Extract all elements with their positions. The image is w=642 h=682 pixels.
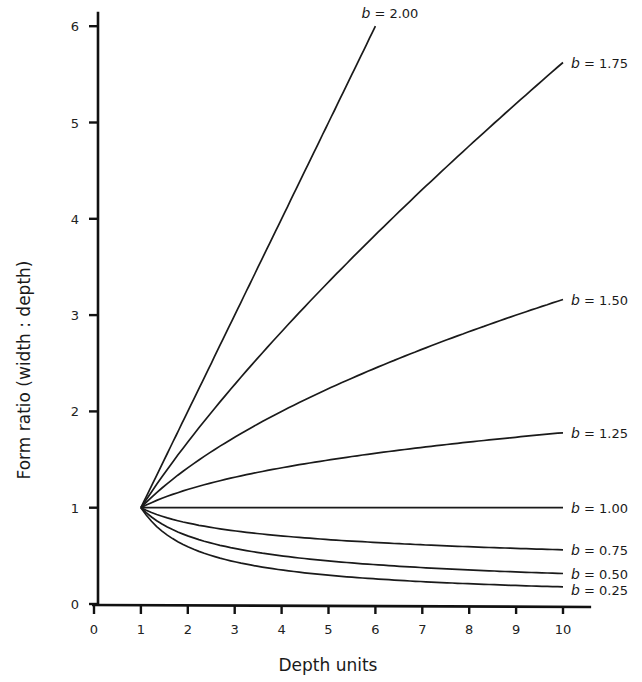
curve-b-0-75: [141, 508, 563, 550]
y-tick-label: 0: [71, 597, 79, 612]
y-tick-label: 3: [71, 308, 79, 323]
curve-label: b = 1.50: [571, 292, 628, 308]
curve-label-value: = 0.25: [580, 583, 628, 598]
curve-label: b = 1.75: [571, 55, 628, 71]
curve-label-value: = 2.00: [370, 6, 418, 21]
curve-label-value: = 0.75: [580, 543, 628, 558]
curve-label-variable: b: [571, 542, 580, 558]
curve-label-value: = 0.50: [580, 567, 628, 582]
x-tick-label: 5: [324, 622, 332, 637]
curve-label: b = 1.00: [571, 500, 628, 516]
curves: [141, 26, 563, 587]
curve-b-1-50: [141, 300, 563, 508]
curve-b-2-00: [141, 26, 376, 508]
curve-label-value: = 1.50: [580, 293, 628, 308]
x-tick-label: 6: [371, 622, 379, 637]
curve-labels: b = 2.00b = 1.75b = 1.50b = 1.25b = 1.00…: [361, 5, 628, 597]
curve-label-value: = 1.75: [580, 56, 628, 71]
curve-label: b = 2.00: [361, 5, 418, 21]
curve-label-value: = 1.25: [580, 426, 628, 441]
x-tick-label: 0: [90, 622, 98, 637]
curve-b-1-75: [141, 63, 563, 508]
curve-label-variable: b: [361, 5, 370, 21]
x-tick-label: 9: [512, 622, 520, 637]
curve-label-value: = 1.00: [580, 501, 628, 516]
curve-label: b = 1.25: [571, 425, 628, 441]
x-axis-title: Depth units: [279, 655, 378, 675]
curve-label-variable: b: [571, 292, 580, 308]
y-tick-label: 2: [71, 404, 79, 419]
curve-label-variable: b: [571, 566, 580, 582]
curve-b-1-25: [141, 433, 563, 508]
y-tick-label: 5: [71, 116, 79, 131]
curve-label: b = 0.50: [571, 566, 628, 582]
y-axis-title: Form ratio (width : depth): [14, 261, 34, 480]
curve-label-variable: b: [571, 500, 580, 516]
curve-label-variable: b: [571, 582, 580, 598]
curve-label-variable: b: [571, 425, 580, 441]
y-tick-label: 4: [71, 212, 79, 227]
x-tick-label: 8: [465, 622, 473, 637]
curve-label-variable: b: [571, 55, 580, 71]
y-tick-label: 6: [71, 19, 79, 34]
x-tick-label: 2: [184, 622, 192, 637]
x-tick-label: 7: [418, 622, 426, 637]
x-tick-label: 10: [555, 622, 572, 637]
x-tick-label: 4: [277, 622, 285, 637]
y-tick-label: 1: [71, 501, 79, 516]
curve-label: b = 0.75: [571, 542, 628, 558]
curve-label: b = 0.25: [571, 582, 628, 598]
x-tick-label: 3: [231, 622, 239, 637]
x-tick-label: 1: [137, 622, 145, 637]
form-ratio-chart: 0123456012345678910 b = 2.00b = 1.75b = …: [0, 0, 642, 682]
